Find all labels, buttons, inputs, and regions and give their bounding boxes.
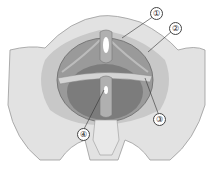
label-1: ①	[150, 7, 163, 20]
label-3: ③	[153, 113, 166, 126]
pelvic-floor-diagram: ① ② ③ ④	[0, 0, 211, 176]
label-4: ④	[77, 128, 90, 141]
label-2: ②	[169, 22, 182, 35]
anal-canal	[100, 76, 112, 118]
